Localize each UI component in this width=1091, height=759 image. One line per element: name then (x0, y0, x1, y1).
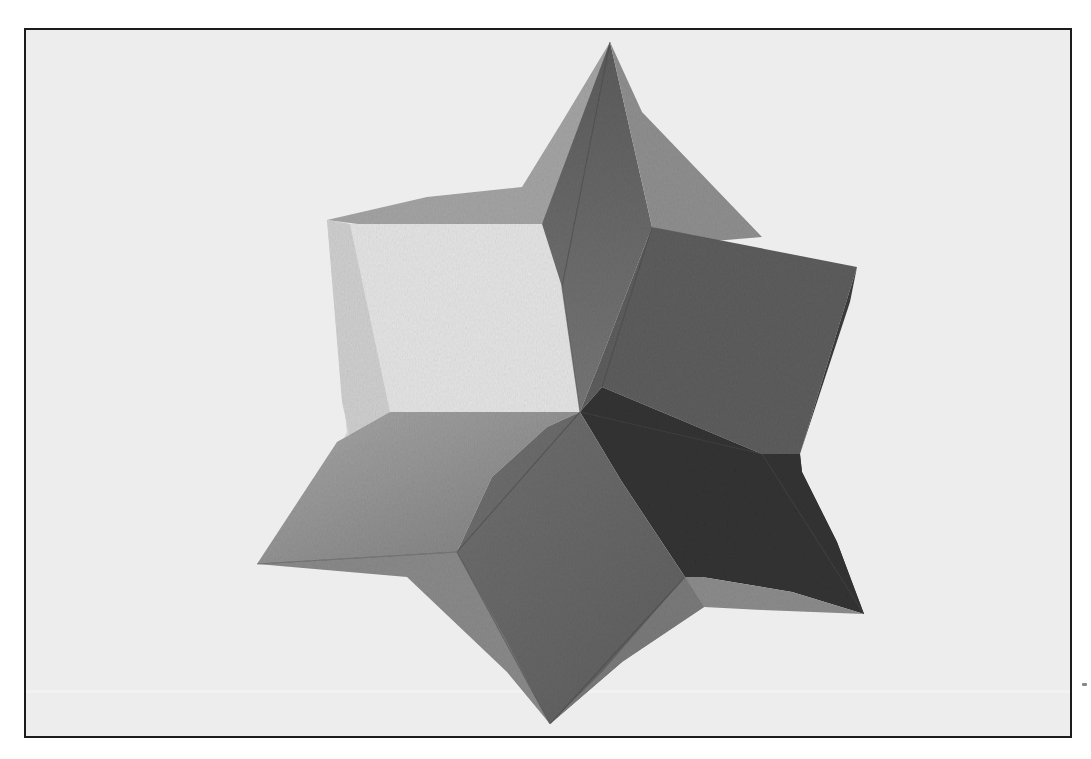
face-upper-left-light (350, 224, 580, 412)
photo-frame (24, 28, 1072, 738)
star-polyhedron-illustration (24, 28, 1072, 738)
edge-mark (1082, 683, 1087, 686)
